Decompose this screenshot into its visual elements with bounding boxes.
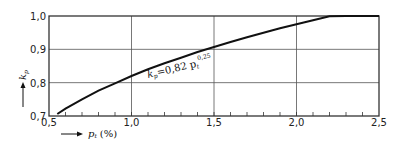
x-tick-label: 2,5: [371, 117, 387, 128]
x-tick-label: 2,0: [289, 117, 305, 128]
x-tick-label: 1,0: [124, 117, 140, 128]
y-tick-label: 1,0: [30, 11, 46, 22]
data-curve: [57, 16, 379, 114]
svg-text:pt(%): pt(%): [88, 128, 117, 139]
chart: 0,51,01,52,02,5 0,70,80,91,0 kp=0,82 pt0…: [0, 0, 399, 146]
y-tick-label: 0,8: [30, 78, 46, 89]
y-tick-labels: 0,70,80,91,0: [30, 11, 46, 122]
svg-text:kp=0,82 pt0,25: kp=0,82 pt0,25: [145, 51, 213, 81]
equation-annotation: kp=0,82 pt0,25: [145, 51, 213, 81]
x-tick-labels: 0,51,01,52,02,5: [41, 117, 387, 128]
y-axis-title: kp: [17, 70, 30, 107]
x-axis-arrowhead-icon: [77, 132, 83, 137]
x-axis-title: pt(%): [61, 128, 117, 139]
x-tick-label: 1,5: [206, 117, 222, 128]
y-axis-arrowhead-icon: [21, 82, 26, 88]
svg-text:kp: kp: [17, 70, 30, 80]
grid-lines: [49, 16, 379, 116]
y-tick-label: 0,9: [30, 44, 46, 55]
y-tick-label: 0,7: [30, 111, 46, 122]
